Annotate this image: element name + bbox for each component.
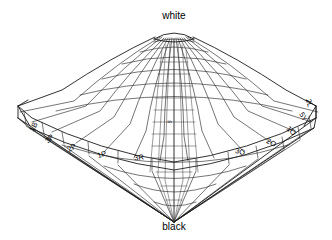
hue-label-3r: 3R (134, 152, 145, 162)
munsell-color-solid-figure: 5 white black 1B 3P 2P 1P 3R 3O 2O 1O 5Y… (0, 0, 332, 240)
white-pole-label: white (161, 10, 186, 21)
black-pole-label: black (162, 221, 186, 232)
color-solid-svg: 5 white black 1B 3P 2P 1P 3R 3O 2O 1O 5Y… (0, 0, 332, 240)
